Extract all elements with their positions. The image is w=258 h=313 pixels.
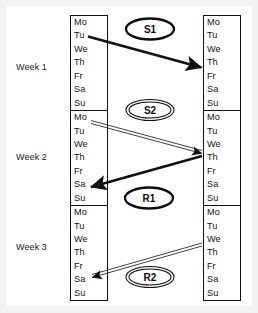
day-cell: Th bbox=[71, 151, 107, 164]
day-cell: Th bbox=[204, 151, 240, 164]
day-cell: We bbox=[204, 138, 240, 151]
day-cell: Su bbox=[204, 192, 240, 205]
left-column-week-3: Mo Tu We Th Fr Sa Su bbox=[70, 205, 108, 301]
day-cell: Sa bbox=[71, 83, 107, 96]
week-label-1: Week 1 bbox=[16, 62, 47, 72]
day-cell: Sa bbox=[204, 83, 240, 96]
day-cell: We bbox=[204, 43, 240, 56]
day-cell: Su bbox=[204, 97, 240, 110]
day-cell: Fr bbox=[71, 70, 107, 83]
right-column-week-2: Mo Tu We Th Fr Sa Su bbox=[203, 110, 241, 205]
day-cell: We bbox=[204, 233, 240, 246]
left-column-week-2: Mo Tu We Th Fr Sa Su bbox=[70, 110, 108, 205]
right-column-week-1: Mo Tu We Th Fr Sa Su bbox=[203, 15, 241, 110]
day-cell: Mo bbox=[204, 206, 240, 219]
day-cell: Fr bbox=[204, 260, 240, 273]
day-cell: Sa bbox=[204, 178, 240, 191]
day-cell: Tu bbox=[71, 29, 107, 42]
week-label-3: Week 3 bbox=[16, 242, 47, 252]
day-cell: Fr bbox=[71, 260, 107, 273]
day-cell: We bbox=[71, 43, 107, 56]
day-cell: Th bbox=[71, 56, 107, 69]
day-cell: Tu bbox=[204, 29, 240, 42]
right-column: Mo Tu We Th Fr Sa Su Mo Tu We Th Fr Sa S… bbox=[203, 15, 241, 301]
day-cell: We bbox=[71, 233, 107, 246]
day-cell: Tu bbox=[204, 125, 240, 138]
diagram-root: Week 1 Week 2 Week 3 Mo Tu We Th Fr Sa S… bbox=[0, 0, 258, 313]
day-cell: Fr bbox=[71, 165, 107, 178]
day-cell: Mo bbox=[71, 111, 107, 124]
day-cell: Su bbox=[71, 97, 107, 110]
day-cell: Su bbox=[204, 287, 240, 300]
day-cell: Mo bbox=[71, 206, 107, 219]
day-cell: Tu bbox=[71, 220, 107, 233]
day-cell: Th bbox=[204, 56, 240, 69]
day-cell: Sa bbox=[71, 178, 107, 191]
day-cell: Tu bbox=[204, 220, 240, 233]
day-cell: Su bbox=[71, 192, 107, 205]
left-column-week-1: Mo Tu We Th Fr Sa Su bbox=[70, 15, 108, 110]
day-cell: Fr bbox=[204, 70, 240, 83]
week-label-2: Week 2 bbox=[16, 152, 47, 162]
day-cell: Mo bbox=[71, 16, 107, 29]
left-column: Mo Tu We Th Fr Sa Su Mo Tu We Th Fr Sa S… bbox=[70, 15, 108, 301]
day-cell: Mo bbox=[204, 16, 240, 29]
day-cell: Sa bbox=[71, 273, 107, 286]
day-cell: Th bbox=[71, 246, 107, 259]
day-cell: Sa bbox=[204, 273, 240, 286]
right-column-week-3: Mo Tu We Th Fr Sa Su bbox=[203, 205, 241, 301]
day-cell: Tu bbox=[71, 125, 107, 138]
day-cell: Su bbox=[71, 287, 107, 300]
day-cell: We bbox=[71, 138, 107, 151]
day-cell: Th bbox=[204, 246, 240, 259]
day-cell: Fr bbox=[204, 165, 240, 178]
day-cell: Mo bbox=[204, 111, 240, 124]
